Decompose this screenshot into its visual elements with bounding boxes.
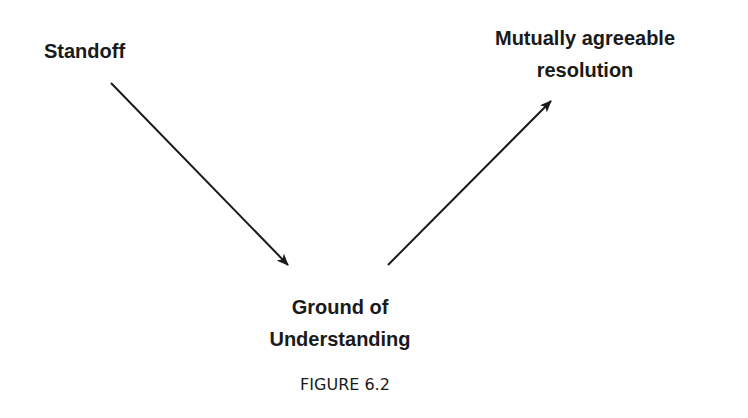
- node-ground-line2: Understanding: [240, 327, 440, 351]
- node-resolution-line1: Mutually agreeable: [480, 26, 690, 50]
- node-ground: Ground of Understanding: [240, 295, 440, 351]
- figure-caption: FIGURE 6.2: [245, 375, 445, 395]
- node-resolution: Mutually agreeable resolution: [480, 26, 690, 82]
- node-resolution-line2: resolution: [480, 58, 690, 82]
- node-ground-line1: Ground of: [240, 295, 440, 319]
- arrow-ground-to-resolution: [388, 101, 551, 265]
- node-standoff: Standoff: [44, 39, 125, 63]
- arrow-standoff-to-ground: [111, 83, 288, 265]
